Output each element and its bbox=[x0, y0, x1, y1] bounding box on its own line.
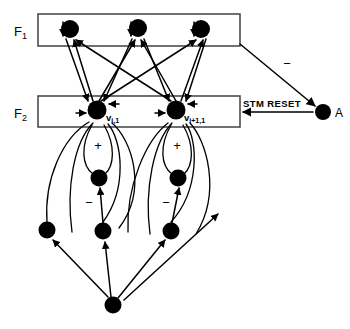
lower-node-center bbox=[95, 223, 112, 240]
f2-layer-subscript: 2 bbox=[22, 113, 27, 123]
mid-node-left bbox=[91, 170, 108, 187]
f1-layer-subscript: 1 bbox=[22, 31, 27, 41]
art-network-diagram: F1 F2 vi,1 vi+1,1 bbox=[0, 0, 350, 329]
minus-sign-left: − bbox=[85, 195, 93, 210]
stm-reset-label: STM RESET bbox=[243, 98, 301, 109]
f2-node-i-plus-1-label-sub: i+1,1 bbox=[189, 117, 205, 125]
f1-node-2 bbox=[129, 19, 147, 37]
input-source-node bbox=[105, 297, 122, 314]
plus-sign-left: + bbox=[94, 138, 102, 153]
right-subcircuit bbox=[128, 123, 210, 234]
f1-node-inputs bbox=[63, 22, 194, 36]
plus-sign-right: + bbox=[173, 138, 181, 153]
reset-node-a-label: A bbox=[335, 106, 343, 120]
lower-node-right bbox=[163, 223, 180, 240]
f1-node-3 bbox=[192, 20, 210, 38]
minus-sign-reset: − bbox=[283, 56, 291, 71]
f1-f2-pathways bbox=[66, 39, 206, 101]
f2-box bbox=[38, 96, 240, 127]
lower-node-left bbox=[39, 222, 56, 239]
reset-node-a bbox=[315, 104, 331, 120]
f2-node-i bbox=[88, 101, 107, 120]
f2-layer-label: F2 bbox=[14, 106, 27, 123]
f2-node-i-plus-1-label: vi+1,1 bbox=[184, 112, 205, 125]
f2-node-i-plus-1 bbox=[167, 101, 186, 120]
f1-layer-label: F1 bbox=[14, 24, 27, 41]
f1-node-1 bbox=[61, 20, 79, 38]
minus-sign-right: − bbox=[162, 195, 170, 210]
mid-node-right bbox=[170, 170, 187, 187]
input-fanout bbox=[53, 214, 218, 300]
